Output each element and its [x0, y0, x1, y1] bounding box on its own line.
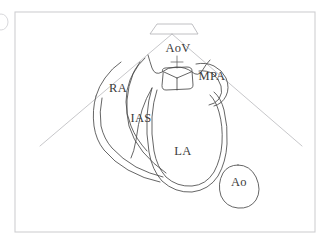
partial-edge-mark: [0, 14, 8, 30]
label-interatrial-septum: IAS: [130, 111, 151, 125]
label-aortic-valve: AoV: [165, 41, 190, 55]
figure-container: AoV MPA RA IAS LA Ao: [0, 0, 330, 243]
la-outer-wall: [147, 88, 227, 192]
transducer-footprint: [150, 24, 198, 34]
echo-diagram-canvas: AoV MPA RA IAS LA Ao: [0, 0, 330, 243]
label-descending-aorta: Ao: [231, 175, 247, 189]
left-atrium-chamber: [147, 88, 227, 192]
aortic-valve-trefoil: [162, 67, 193, 90]
aortic-valve-leaflet-commissure-left: [164, 72, 177, 78]
crosshair-marker: [171, 56, 183, 68]
sector-right-edge: [172, 34, 302, 146]
aortic-valve-outline: [162, 67, 193, 90]
label-right-atrium: RA: [109, 81, 127, 95]
ra-channel-inner-wall: [100, 98, 163, 177]
label-main-pulmonary-artery: MPA: [199, 69, 226, 83]
aortic-valve-leaflet-commissure-right: [177, 72, 191, 78]
label-left-atrium: LA: [174, 144, 191, 158]
